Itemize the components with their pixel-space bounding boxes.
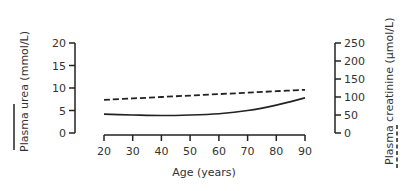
left-axis-title: Plasma urea (mmol/L) [18, 31, 31, 152]
left-y-tick-labels: 20 15 10 5 0 [52, 37, 66, 140]
y2-tick-label: 150 [344, 73, 365, 86]
x-tick-label: 40 [154, 145, 168, 158]
x-tick-label: 70 [241, 145, 255, 158]
y-tick-label: 5 [59, 105, 66, 118]
y-tick-label: 10 [52, 82, 66, 95]
y2-tick-label: 200 [344, 55, 365, 68]
y2-tick-label: 100 [344, 91, 365, 104]
x-axis [104, 135, 305, 141]
x-tick-label: 50 [183, 145, 197, 158]
x-axis-title: Age (years) [172, 166, 236, 179]
left-y-axis [69, 43, 75, 133]
chart: 20 15 10 5 0 Plasma urea (mmol/L) 250 20… [0, 0, 408, 191]
x-tick-label: 90 [298, 145, 312, 158]
right-y-axis [335, 43, 341, 133]
x-tick-labels: 20 30 40 50 60 70 80 90 [97, 145, 312, 158]
y-tick-label: 0 [59, 127, 66, 140]
right-y-tick-labels: 250 200 150 100 50 0 [344, 37, 365, 140]
y2-tick-label: 0 [344, 127, 351, 140]
x-tick-label: 20 [97, 145, 111, 158]
x-tick-label: 80 [269, 145, 283, 158]
x-tick-label: 60 [212, 145, 226, 158]
creatinine-line [104, 90, 305, 100]
y2-tick-label: 250 [344, 37, 365, 50]
y2-tick-label: 50 [344, 109, 358, 122]
x-tick-label: 30 [126, 145, 140, 158]
urea-line [104, 98, 305, 116]
y-tick-label: 15 [52, 60, 66, 73]
y-tick-label: 20 [52, 37, 66, 50]
right-axis-title: Plasma creatinine (µmol/L) [383, 17, 396, 165]
